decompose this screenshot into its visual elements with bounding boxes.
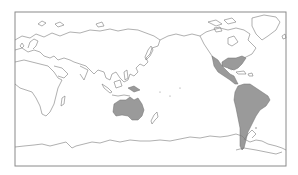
scandinavia-outline [28,39,38,49]
pacific-island [159,91,160,92]
world-map-svg [0,0,298,175]
eurasia-outline [15,29,160,82]
cuba-outline [236,71,246,74]
pacific-island [179,87,180,88]
borneo-outline [114,80,122,88]
greenland-outline [252,15,280,40]
severnaya-outline [96,22,104,27]
world-map [0,0,298,175]
africa-outline [15,60,62,116]
australia-shape [113,97,144,120]
british-isles-outline [20,43,24,48]
south-america-shape [234,84,270,150]
pacific-island [169,95,170,96]
iceland-outline [282,34,286,39]
southeastern-us-shape [222,56,246,70]
india-outline [80,66,88,80]
new-zealand-outline [151,112,158,124]
madagascar-outline [61,96,65,106]
arabia-outline [54,66,68,78]
philippines-outline [124,70,128,80]
falkland-islands [255,127,257,129]
new-guinea-shape [128,86,140,92]
svalbard-outline [38,21,46,26]
sumatra-outline [102,84,112,93]
hudson-bay-outline [228,36,238,46]
novaya-zemlya-outline [55,22,64,27]
hispaniola-outline [248,73,253,76]
indonesia-chain-outline [112,95,130,96]
